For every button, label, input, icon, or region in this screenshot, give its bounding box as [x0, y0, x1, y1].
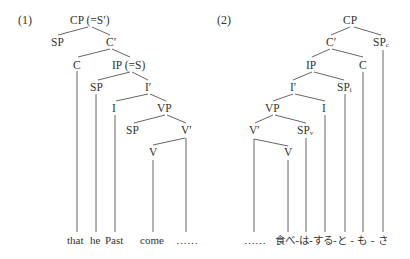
leaf-ellipsis: ……	[176, 234, 198, 246]
node-sp-c: SPc	[373, 36, 389, 49]
node-i-bar: I′	[145, 81, 151, 93]
leaf-that: that	[67, 234, 84, 246]
branch	[112, 49, 130, 57]
branch	[275, 115, 306, 123]
example-number-1: (1)	[18, 13, 32, 27]
branch	[295, 94, 325, 101]
branch	[354, 27, 381, 35]
node-i: I	[112, 102, 116, 114]
leaf-ellipsis: ……	[244, 234, 266, 246]
tree-1: (1) CP (=S′) SP C′ C IP (=S) SP I′ I VP …	[18, 13, 198, 246]
node-c: C	[359, 59, 367, 71]
leaf-past: Past	[105, 234, 123, 246]
branch	[58, 27, 88, 35]
leaf-come: come	[140, 234, 164, 246]
branch	[78, 49, 110, 57]
node-sp-spec-cp: SP	[51, 36, 64, 48]
branch	[150, 94, 166, 101]
node-c: C	[73, 59, 81, 71]
branch	[116, 94, 148, 101]
branch	[255, 115, 273, 123]
node-sp-v: SPv	[297, 124, 314, 137]
node-ip: IP	[306, 59, 316, 71]
node-vp: VP	[157, 102, 172, 114]
node-cp: CP (=S′)	[70, 14, 110, 27]
branch	[153, 138, 185, 145]
node-sp-spec-ip: SP	[90, 81, 103, 93]
branch	[134, 115, 165, 123]
node-sp-spec-vp: SP	[126, 124, 139, 136]
example-number-2: (2)	[217, 13, 231, 27]
branch	[132, 72, 148, 80]
node-v-bar: V′	[249, 124, 260, 136]
branch	[98, 72, 130, 80]
node-vp: VP	[265, 102, 280, 114]
node-c-bar: C′	[106, 36, 116, 48]
branch	[254, 139, 288, 146]
node-c-bar: C′	[326, 36, 336, 48]
branch	[273, 94, 293, 101]
node-v: V	[284, 146, 293, 158]
node-v-bar: V′	[181, 124, 192, 136]
node-v: V	[149, 146, 158, 158]
leaf-japanese-phrase: 食べ-は-する-と - も - さ	[275, 234, 388, 246]
node-cp: CP	[343, 14, 357, 26]
branch	[312, 49, 330, 57]
branch	[332, 49, 363, 57]
branch	[331, 27, 350, 35]
tree-2: (2) CP C′ SPc IP C I′ SPi VP I V′ SPv V	[217, 13, 389, 246]
leaf-he: he	[90, 234, 101, 246]
branch	[167, 115, 186, 123]
node-i-bar: I′	[290, 81, 296, 93]
node-sp-i: SPi	[337, 81, 352, 94]
branch	[92, 27, 110, 35]
node-ip: IP (=S)	[112, 59, 145, 72]
node-i: I	[322, 102, 326, 114]
syntax-tree-diagram: (1) CP (=S′) SP C′ C IP (=S) SP I′ I VP …	[0, 0, 410, 259]
branch	[293, 72, 312, 80]
branch	[314, 72, 344, 80]
